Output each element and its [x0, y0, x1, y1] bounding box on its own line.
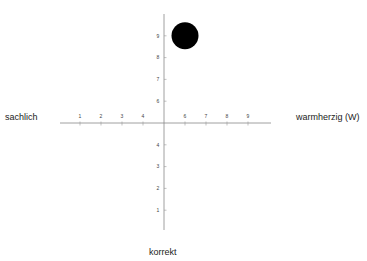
y-tick-label: 1 — [157, 207, 160, 213]
data-points — [172, 22, 199, 49]
scatter-chart: 12346789 12346789 — [0, 0, 367, 261]
x-tick-label: 2 — [100, 113, 103, 119]
data-point-marker — [172, 22, 199, 49]
y-tick-label: 8 — [157, 54, 160, 60]
x-tick-label: 1 — [79, 113, 82, 119]
left-axis-label: sachlich — [5, 112, 38, 122]
x-tick-label: 9 — [247, 113, 250, 119]
x-tick-label: 7 — [205, 113, 208, 119]
y-tick-label: 2 — [157, 185, 160, 191]
y-tick-label: 9 — [157, 33, 160, 39]
x-tick-label: 6 — [184, 113, 187, 119]
x-tick-label: 4 — [142, 113, 145, 119]
axes — [60, 14, 271, 230]
right-axis-label: warmherzig (W) — [296, 112, 360, 122]
y-tick-label: 4 — [157, 142, 160, 148]
x-tick-label: 8 — [226, 113, 229, 119]
y-tick-label: 7 — [157, 76, 160, 82]
x-tick-label: 3 — [121, 113, 124, 119]
y-tick-label: 3 — [157, 163, 160, 169]
y-tick-label: 6 — [157, 98, 160, 104]
bottom-axis-label: korrekt — [149, 247, 177, 257]
